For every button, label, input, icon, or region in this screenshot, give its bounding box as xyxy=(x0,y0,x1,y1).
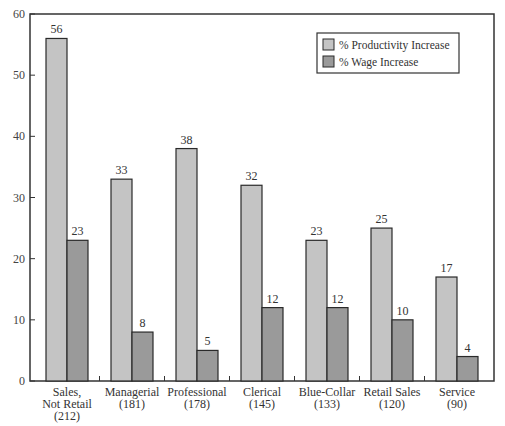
category-label: (145) xyxy=(249,397,275,411)
category-label: (212) xyxy=(54,409,80,423)
bar-value-label: 10 xyxy=(397,304,409,318)
category-label: (120) xyxy=(379,397,405,411)
bar-value-label: 23 xyxy=(311,224,323,238)
bar-value-label: 33 xyxy=(116,163,128,177)
wage-bar xyxy=(67,240,88,381)
category-label: (178) xyxy=(184,397,210,411)
productivity-bar xyxy=(46,38,67,381)
legend-swatch xyxy=(323,56,334,67)
legend: % Productivity Increase% Wage Increase xyxy=(317,33,459,73)
bar-value-label: 23 xyxy=(72,224,84,238)
category-label: (133) xyxy=(314,397,340,411)
productivity-bar xyxy=(306,240,327,381)
bar-value-label: 17 xyxy=(441,261,453,275)
wage-bar xyxy=(132,332,153,381)
bar-value-label: 8 xyxy=(140,316,146,330)
bar-value-label: 25 xyxy=(376,212,388,226)
wage-bar xyxy=(327,308,348,381)
bar-value-label: 12 xyxy=(332,292,344,306)
bar-value-label: 38 xyxy=(181,133,193,147)
productivity-bar xyxy=(241,185,262,381)
y-tick-label: 20 xyxy=(13,252,25,266)
productivity-bar xyxy=(111,179,132,381)
y-tick-label: 60 xyxy=(13,7,25,21)
bar-value-label: 12 xyxy=(267,292,279,306)
legend-swatch xyxy=(323,39,334,50)
y-tick-label: 10 xyxy=(13,313,25,327)
legend-label: % Productivity Increase xyxy=(339,39,450,52)
legend-label: % Wage Increase xyxy=(339,56,418,69)
category-label: (90) xyxy=(447,397,467,411)
wage-bar xyxy=(392,320,413,381)
bar-chart: 01020304050605623Sales,Not Retail(212)33… xyxy=(0,0,505,426)
bar-value-label: 56 xyxy=(51,22,63,36)
bar-value-label: 5 xyxy=(205,334,211,348)
bar-value-label: 4 xyxy=(465,341,471,355)
wage-bar xyxy=(197,350,218,381)
wage-bar xyxy=(457,357,478,381)
category-label: (181) xyxy=(119,397,145,411)
bar-value-label: 32 xyxy=(246,169,258,183)
y-tick-label: 0 xyxy=(19,374,25,388)
productivity-bar xyxy=(436,277,457,381)
wage-bar xyxy=(262,308,283,381)
y-tick-label: 50 xyxy=(13,68,25,82)
y-tick-label: 40 xyxy=(13,129,25,143)
productivity-bar xyxy=(371,228,392,381)
y-tick-label: 30 xyxy=(13,191,25,205)
productivity-bar xyxy=(176,149,197,381)
